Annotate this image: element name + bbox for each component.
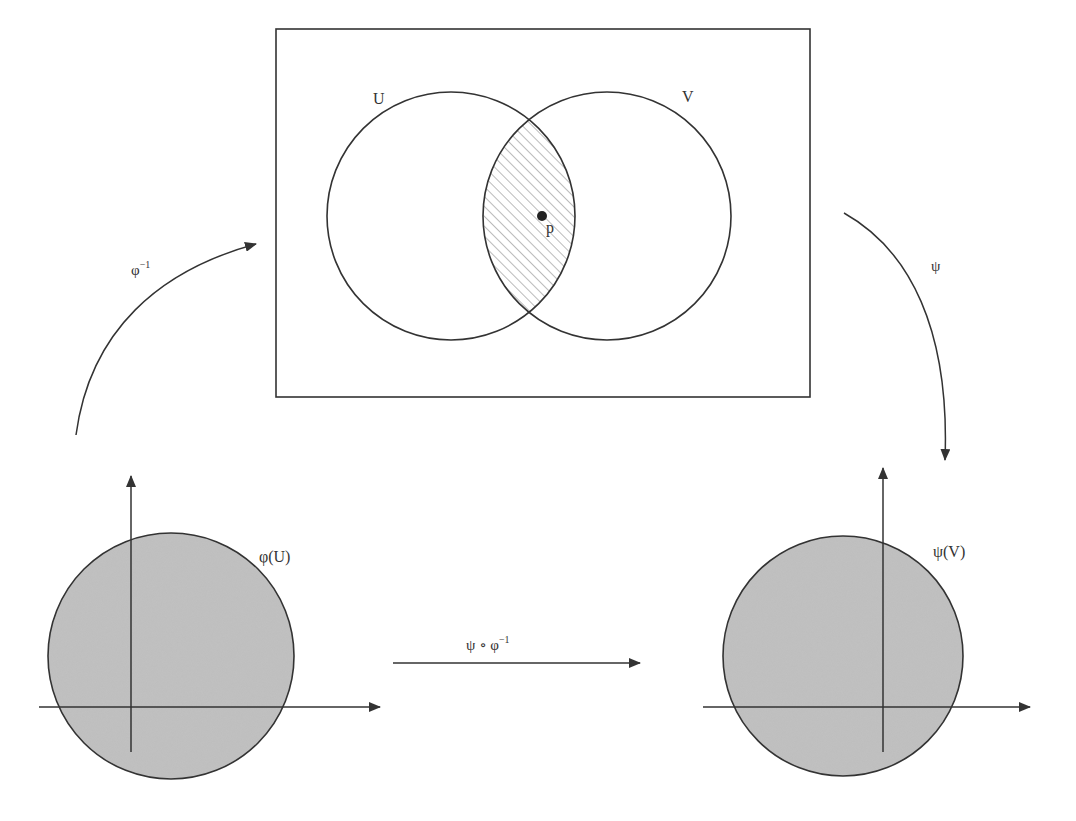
- phi-U-disk-texture: [49, 534, 293, 778]
- set-U-label: U: [373, 90, 385, 107]
- phi-inverse-arrow: φ−1: [76, 244, 256, 435]
- psi-arrow-path: [844, 213, 945, 460]
- intersection-hatch: [483, 92, 731, 340]
- set-V-label: V: [682, 88, 694, 105]
- chart-psi-V: ψ(V): [703, 468, 1030, 776]
- chart-phi-U: φ(U): [39, 476, 380, 779]
- transition-arrow: ψ ∘ φ−1: [393, 634, 640, 663]
- psi-V-label: ψ(V): [933, 543, 965, 561]
- diagram-canvas: U V p φ−1 ψ φ(U) ψ ∘ φ−1 ψ(V): [0, 0, 1076, 821]
- phi-inverse-arrow-path: [76, 244, 256, 435]
- transition-label: ψ ∘ φ−1: [466, 634, 510, 653]
- manifold-region: U V p: [276, 29, 810, 397]
- phi-U-label: φ(U): [259, 548, 290, 566]
- psi-V-disk-texture: [724, 537, 962, 775]
- phi-inverse-label: φ−1: [131, 259, 150, 278]
- psi-arrow: ψ: [844, 213, 945, 460]
- point-p-label: p: [546, 219, 554, 237]
- psi-label: ψ: [931, 258, 941, 274]
